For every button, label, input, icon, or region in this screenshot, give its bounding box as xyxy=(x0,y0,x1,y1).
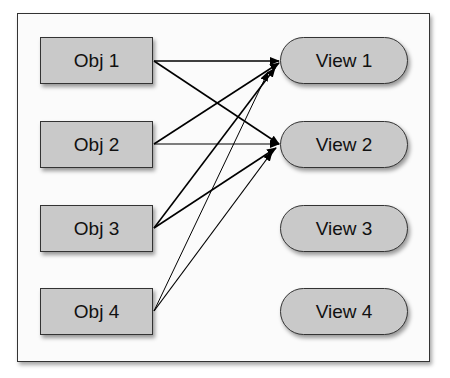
view-node-1: View 1 xyxy=(280,37,408,84)
object-node-1: Obj 1 xyxy=(40,37,153,84)
object-node-3: Obj 3 xyxy=(40,205,153,252)
arrow-obj3-view1 xyxy=(154,68,275,228)
object-node-2: Obj 2 xyxy=(40,121,153,168)
view-node-4: View 4 xyxy=(280,288,408,335)
arrow-obj4-view2 xyxy=(154,152,272,311)
object-node-4: Obj 4 xyxy=(40,288,153,335)
view-node-2: View 2 xyxy=(280,121,408,168)
arrow-obj3-view2 xyxy=(154,148,276,228)
view-node-3: View 3 xyxy=(280,205,408,252)
